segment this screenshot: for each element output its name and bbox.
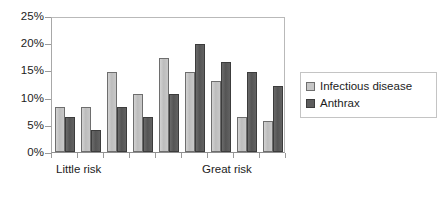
y-axis-tick-label: 0% <box>0 146 44 158</box>
legend-item-label: Infectious disease <box>320 80 412 93</box>
bar-infectious-disease <box>107 72 117 153</box>
x-axis-label-little-risk: Little risk <box>56 162 101 176</box>
x-axis-tick-mark <box>103 153 104 158</box>
legend-item-label: Anthrax <box>320 97 360 110</box>
bar-infectious-disease <box>263 121 273 152</box>
bar-anthrax <box>247 72 257 152</box>
y-axis-tick-label: 5% <box>0 119 44 131</box>
bar-infectious-disease <box>55 107 65 152</box>
x-axis-tick-mark <box>181 153 182 158</box>
y-axis-tick-label: 20% <box>0 37 44 49</box>
x-axis-tick-mark <box>155 153 156 158</box>
x-axis-tick-mark <box>233 153 234 158</box>
x-axis-tick-mark <box>51 153 52 158</box>
bar-infectious-disease <box>159 58 169 152</box>
x-axis-tick-mark <box>259 153 260 158</box>
bar-anthrax <box>221 62 231 152</box>
y-axis-tick-label: 15% <box>0 64 44 76</box>
bar-infectious-disease <box>185 72 195 152</box>
y-axis-tick-label: 25% <box>0 10 44 22</box>
x-axis-label-great-risk: Great risk <box>202 162 252 176</box>
legend-item[interactable]: Infectious disease <box>306 78 430 95</box>
bar-infectious-disease <box>237 117 247 152</box>
legend-swatch-icon <box>306 82 315 91</box>
bar-anthrax <box>143 117 153 152</box>
plot-area <box>51 17 285 153</box>
chart-legend: Infectious diseaseAnthrax <box>300 72 437 118</box>
y-axis-labels: 0%5%10%15%20%25% <box>0 0 44 199</box>
bar-anthrax <box>91 130 101 152</box>
bar-anthrax <box>273 86 283 152</box>
x-axis-tick-mark <box>207 153 208 158</box>
bar-infectious-disease <box>133 94 143 152</box>
bar-chart: 0%5%10%15%20%25% Little risk Great risk … <box>0 0 446 199</box>
bar-anthrax <box>117 107 127 152</box>
bar-anthrax <box>195 44 205 152</box>
y-axis-tick-label: 10% <box>0 92 44 104</box>
x-axis-tick-mark <box>77 153 78 158</box>
legend-swatch-icon <box>306 99 315 108</box>
x-axis-tick-mark <box>285 153 286 158</box>
bar-infectious-disease <box>81 107 91 152</box>
x-axis-tick-mark <box>129 153 130 158</box>
bar-infectious-disease <box>211 81 221 152</box>
bars-layer <box>52 18 284 152</box>
bar-anthrax <box>169 94 179 152</box>
legend-item[interactable]: Anthrax <box>306 95 430 112</box>
bar-anthrax <box>65 117 75 152</box>
